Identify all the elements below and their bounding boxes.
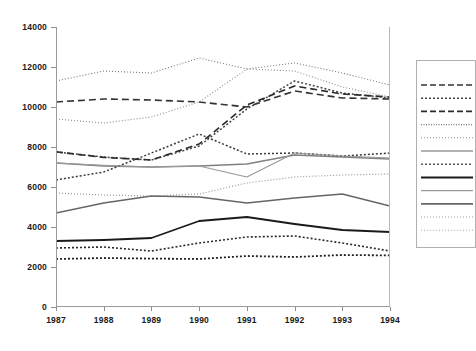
x-tick-label: 1993 <box>332 315 352 325</box>
y-tick-label: 10000 <box>22 102 47 112</box>
x-tick-mark <box>104 307 105 311</box>
y-tick-label: 14000 <box>22 22 47 32</box>
plot-frame <box>56 27 390 307</box>
y-tick-label: 12000 <box>22 62 47 72</box>
y-tick-label: 2000 <box>27 262 47 272</box>
y-tick-label: 6000 <box>27 182 47 192</box>
x-tick-mark <box>151 307 152 311</box>
plot-area <box>56 27 390 307</box>
y-tick-label: 4000 <box>27 222 47 232</box>
x-tick-mark <box>247 307 248 311</box>
x-tick-label: 1994 <box>380 315 400 325</box>
x-tick-label: 1990 <box>189 315 209 325</box>
x-tick-mark <box>56 307 57 311</box>
x-tick-label: 1987 <box>46 315 66 325</box>
y-tick-label: 0 <box>42 302 47 312</box>
x-tick-label: 1992 <box>285 315 305 325</box>
y-tick-label: 8000 <box>27 142 47 152</box>
x-tick-label: 1991 <box>237 315 257 325</box>
x-tick-label: 1988 <box>94 315 114 325</box>
x-tick-label: 1989 <box>142 315 162 325</box>
x-tick-mark <box>390 307 391 311</box>
legend-swatches <box>417 61 475 247</box>
chart-legend <box>416 60 476 248</box>
x-tick-mark <box>342 307 343 311</box>
x-tick-mark <box>199 307 200 311</box>
x-tick-mark <box>295 307 296 311</box>
